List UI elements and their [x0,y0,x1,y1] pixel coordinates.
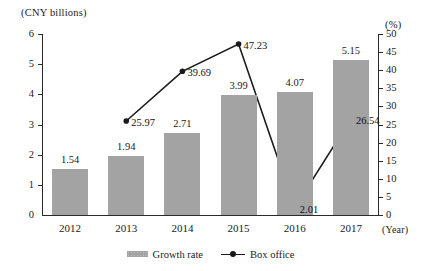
legend-item-growth-rate[interactable]: Growth rate [127,249,203,260]
left-axis-tickmark [38,125,42,126]
bar-value-label-2012: 1.54 [42,154,98,165]
right-axis-tick-0: 0 [386,210,406,220]
left-axis-tickmark [38,155,42,156]
bar-value-label-2013: 1.94 [98,141,154,152]
right-axis-tickmark [379,161,383,162]
point-value-label-2014: 39.69 [187,67,211,78]
right-axis-tickmark [379,179,383,180]
bar-2014[interactable] [164,133,200,215]
bar-2017[interactable] [333,60,369,215]
legend-item-box-office[interactable]: Box office [221,249,294,260]
left-axis-tickmark [38,34,42,35]
box-office-line-series [42,34,379,215]
right-axis-tick-35: 35 [386,83,406,93]
point-value-label-2017: 26.54 [356,115,380,126]
x-label-2014: 2014 [154,222,210,234]
point-value-label-2013: 25.97 [131,117,155,128]
left-axis-tick-4: 4 [16,89,34,99]
left-axis-tick-0: 0 [16,210,34,220]
right-axis-tickmark [379,52,383,53]
right-axis-tick-15: 15 [386,156,406,166]
left-axis-tickmark [38,94,42,95]
line-with-dot-icon [221,250,245,259]
legend-label-box-office: Box office [250,249,294,260]
right-axis-tick-labels: 50454035302520151050 [386,0,408,271]
bar-2016[interactable] [277,92,313,215]
bar-value-label-2014: 2.71 [154,118,210,129]
data-point-2015[interactable] [236,41,242,47]
right-axis-tickmark [379,125,383,126]
right-axis-tickmark [379,88,383,89]
left-axis-tickmark [38,64,42,65]
data-point-2013[interactable] [123,118,129,124]
x-label-2016: 2016 [267,222,323,234]
right-axis-tickmark [379,143,383,144]
right-axis-tick-45: 45 [386,47,406,57]
right-axis-tick-20: 20 [386,138,406,148]
bar-swatch-icon [127,251,148,257]
x-label-2013: 2013 [98,222,154,234]
chart-legend: Growth rate Box office [0,245,421,263]
x-label-2012: 2012 [42,222,98,234]
right-axis-tick-30: 30 [386,101,406,111]
legend-label-growth-rate: Growth rate [153,249,203,260]
right-axis-tickmark [379,215,383,216]
left-axis-tick-5: 5 [16,59,34,69]
plot-area: 1.541.942.713.994.075.1525.9739.6947.232… [42,34,379,215]
x-axis-category-labels: 201220132014201520162017 [42,222,379,238]
right-axis-tickmark [379,70,383,71]
x-label-2015: 2015 [211,222,267,234]
point-value-label-2016: 2.01 [300,204,318,215]
right-axis-tick-5: 5 [386,192,406,202]
x-axis [42,215,379,216]
right-axis-tick-50: 50 [386,29,406,39]
x-label-2017: 2017 [323,222,379,234]
right-axis-tick-40: 40 [386,65,406,75]
left-axis-tick-6: 6 [16,29,34,39]
left-axis-tick-2: 2 [16,150,34,160]
left-axis-tick-3: 3 [16,120,34,130]
bar-2013[interactable] [108,156,144,215]
bar-2015[interactable] [221,95,257,215]
left-axis-tickmark [38,185,42,186]
right-axis-tickmark [379,34,383,35]
data-point-2014[interactable] [180,69,186,75]
right-axis-tickmark [379,197,383,198]
right-axis-tickmark [379,106,383,107]
chart-container: (CNY billions) (%) (Year) 6543210 504540… [0,0,421,271]
left-axis-tick-labels: 6543210 [14,0,34,271]
left-axis-tick-1: 1 [16,180,34,190]
bar-2012[interactable] [52,169,88,215]
right-axis-tick-25: 25 [386,120,406,130]
right-axis-tick-10: 10 [386,174,406,184]
point-value-label-2015: 47.23 [244,40,268,51]
bar-value-label-2015: 3.99 [211,80,267,91]
bar-value-label-2016: 4.07 [267,77,323,88]
bar-value-label-2017: 5.15 [323,45,379,56]
